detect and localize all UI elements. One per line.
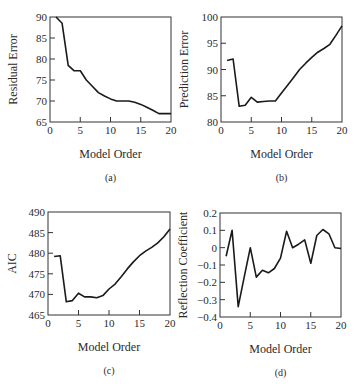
x-tick-label: 15	[305, 319, 317, 331]
y-tick-label: 65	[36, 116, 48, 128]
panel-label: (a)	[105, 172, 116, 184]
y-tick-label: 470	[29, 288, 46, 300]
x-tick-label: 20	[166, 124, 178, 136]
x-axis-label: Model Order	[79, 147, 141, 161]
x-tick-label: 10	[104, 317, 116, 329]
figure: 05101520657075808590Model Order(a)Residu…	[0, 0, 358, 385]
y-tick-label: 70	[36, 95, 48, 107]
x-tick-label: 10	[276, 124, 288, 136]
y-tick-label: 90	[36, 11, 48, 23]
x-tick-label: 0	[217, 319, 223, 331]
y-tick-label: 80	[36, 53, 48, 65]
y-tick-label: 85	[36, 32, 48, 44]
chart-panel-b: 0510152080859095100Model Order(b)Predict…	[177, 11, 348, 184]
plot-frame	[50, 17, 171, 122]
x-tick-label: 5	[248, 319, 254, 331]
x-tick-label: 0	[218, 124, 224, 136]
y-tick-label: 0	[212, 242, 218, 254]
x-tick-label: 5	[76, 317, 82, 329]
panel-label: (c)	[103, 365, 114, 377]
panel-label: (d)	[275, 367, 287, 379]
x-tick-label: 5	[249, 124, 255, 136]
x-tick-label: 5	[78, 124, 84, 136]
x-tick-label: 20	[337, 124, 349, 136]
y-tick-label: 85	[207, 90, 219, 102]
y-tick-label: 0.1	[203, 224, 217, 236]
data-line	[226, 230, 341, 307]
data-line	[227, 26, 342, 106]
y-tick-label: 475	[29, 268, 46, 280]
y-tick-label: 95	[207, 37, 219, 49]
panel-label: (b)	[276, 172, 288, 184]
x-axis-label: Model Order	[250, 147, 312, 161]
y-tick-label: 0.2	[203, 207, 217, 219]
y-tick-label: −0.2	[197, 276, 217, 288]
y-tick-label: −0.1	[197, 259, 217, 271]
x-tick-label: 15	[306, 124, 318, 136]
y-axis-label: AIC	[5, 253, 19, 274]
chart-panel-a: 05101520657075808590Model Order(a)Residu…	[6, 11, 177, 184]
y-tick-label: 75	[36, 74, 48, 86]
y-tick-label: 490	[29, 206, 46, 218]
x-tick-label: 0	[47, 124, 53, 136]
y-tick-label: 480	[29, 247, 46, 259]
x-tick-label: 20	[165, 317, 177, 329]
y-tick-label: 100	[202, 11, 219, 23]
x-tick-label: 15	[134, 317, 146, 329]
y-axis-label: Reflection Coefficient	[176, 211, 190, 318]
y-tick-label: 90	[207, 64, 219, 76]
y-tick-label: 80	[207, 116, 219, 128]
x-tick-label: 0	[45, 317, 51, 329]
x-tick-label: 20	[336, 319, 348, 331]
chart-panel-c: 05101520465470475480485490Model Order(c)…	[5, 206, 176, 377]
x-axis-label: Model Order	[78, 340, 140, 354]
y-tick-label: 485	[29, 227, 46, 239]
x-tick-label: 15	[135, 124, 147, 136]
chart-panel-d: 05101520−0.4−0.3−0.2−0.100.10.2Model Ord…	[176, 207, 347, 379]
y-tick-label: 465	[29, 309, 46, 321]
x-tick-label: 10	[275, 319, 287, 331]
y-axis-label: Residual Error	[6, 34, 20, 104]
y-axis-label: Prediction Error	[177, 31, 191, 109]
x-tick-label: 10	[105, 124, 117, 136]
y-tick-label: −0.3	[197, 294, 217, 306]
y-tick-label: −0.4	[197, 311, 217, 323]
x-axis-label: Model Order	[249, 342, 311, 356]
data-line	[54, 229, 170, 302]
data-line	[56, 17, 171, 114]
